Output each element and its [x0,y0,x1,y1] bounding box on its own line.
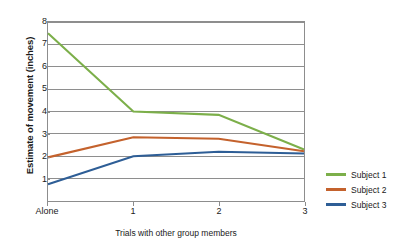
x-tick-label: 3 [277,206,333,216]
legend-swatch-icon [326,173,346,175]
y-tick-label: 3 [31,130,47,139]
legend-item-3[interactable]: Subject 3 [326,197,412,212]
series-line-1 [48,33,304,149]
x-tick-mark [219,202,220,206]
y-tick-mark [47,21,50,22]
x-tick-label: 1 [105,206,161,216]
legend-swatch-icon [326,203,346,205]
x-tick-mark [47,202,48,206]
y-tick-label: 4 [31,107,47,116]
y-tick-label: 8 [31,17,47,26]
y-tick-mark [47,134,50,135]
legend-swatch-icon [326,188,346,190]
y-tick-label: 7 [31,39,47,48]
y-tick-mark [47,179,50,180]
x-tick-label: Alone [19,206,75,216]
legend-label: Subject 2 [351,185,386,195]
series-lines [48,22,304,201]
y-tick-mark [47,89,50,90]
y-tick-label: 5 [31,84,47,93]
y-tick-mark [47,112,50,113]
x-tick-mark [305,202,306,206]
line-chart-figure: Estimate of movement (inches) 87654321 A… [0,0,415,252]
x-tick-label: 2 [191,206,247,216]
legend-label: Subject 1 [351,170,386,180]
y-tick-mark [47,66,50,67]
x-axis-title: Trials with other group members [47,228,305,238]
y-tick-label: 2 [31,152,47,161]
x-tick-mark [133,202,134,206]
legend-item-1[interactable]: Subject 1 [326,167,412,182]
legend-label: Subject 3 [351,200,386,210]
y-tick-label: 6 [31,62,47,71]
series-line-3 [48,152,304,184]
plot-area [47,21,305,202]
y-tick-label: 1 [31,175,47,184]
y-tick-mark [47,157,50,158]
chart-legend: Subject 1Subject 2Subject 3 [326,167,412,212]
y-tick-mark [47,44,50,45]
legend-item-2[interactable]: Subject 2 [326,182,412,197]
